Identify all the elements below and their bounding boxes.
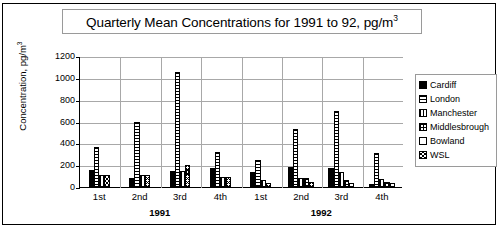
y-axis-tick [76,144,80,145]
y-axis-tick [76,166,80,167]
chart-title: Quarterly Mean Concentrations for 1991 t… [86,13,398,30]
category-separator [201,57,202,188]
solid-black-swatch [419,81,427,89]
bar-bowland-4th-1992 [390,183,395,187]
legend-item[interactable]: Manchester [419,106,493,120]
page-footer-artifact [4,232,204,241]
legend-item-label: London [430,94,460,104]
legend-item[interactable]: Bowland [419,134,493,148]
y-axis-tick-label: 1000 [41,73,75,83]
x-axis-group-labels: 19911992 [79,207,402,221]
y-axis-ticks: 120010008006004002000 [39,57,75,188]
legend-item-label: Cardiff [430,80,456,90]
legend-item-label: Middlesbrough [430,122,489,132]
plot-area [79,57,402,188]
bar-wsl-2nd-1991 [145,175,150,187]
y-axis-tick-label: 800 [41,95,75,105]
category-separator [161,57,162,188]
bar-london-3rd-1991 [175,72,180,187]
x-axis-tick-label: 3rd [160,191,200,202]
y-axis-label-text: Concentration, pg/m [17,45,28,131]
x-axis-tick-label: 4th [200,191,240,202]
chart-legend: CardiffLondonManchesterMiddlesbroughBowl… [415,74,497,167]
x-axis-group-label: 1992 [241,207,403,218]
y-axis-tick [76,57,80,58]
legend-item-label: Bowland [430,136,465,146]
chart-title-superscript: 3 [393,13,398,23]
y-axis-tick [76,123,80,124]
category-separator [120,57,121,188]
y-axis-label: Concentration, pg/m3 [16,26,28,146]
vertical-lines-swatch [419,109,427,117]
x-axis-tick-label: 3rd [321,191,361,202]
x-axis-tick-label: 2nd [119,191,159,202]
y-axis-tick-label: 400 [41,138,75,148]
x-axis-tick-label: 2nd [281,191,321,202]
chart-screenshot: Quarterly Mean Concentrations for 1991 t… [0,0,502,247]
chart-title-box: Quarterly Mean Concentrations for 1991 t… [62,9,422,34]
y-axis-tick [76,188,80,189]
bar-wsl-4th-1991 [226,177,231,187]
legend-item-label: WSL [430,150,450,160]
y-axis-tick [76,101,80,102]
legend-item[interactable]: WSL [419,148,493,162]
category-separator [322,57,323,188]
y-axis-tick-label: 0 [41,182,75,192]
category-separator [363,57,364,188]
legend-item[interactable]: London [419,92,493,106]
legend-item[interactable]: Middlesbrough [419,120,493,134]
bar-wsl-1st-1991 [104,175,109,187]
chart-title-text: Quarterly Mean Concentrations for 1991 t… [86,15,393,30]
x-axis-tick-label: 4th [362,191,402,202]
category-separator [282,57,283,188]
dense-crosshatch-swatch [419,151,427,159]
legend-item[interactable]: Cardiff [419,78,493,92]
bar-wsl-1st-1992 [266,183,271,187]
bar-bowland-3rd-1992 [349,183,354,187]
y-axis-tick [76,79,80,80]
legend-item-label: Manchester [430,108,477,118]
y-axis-tick-label: 200 [41,160,75,170]
bar-wsl-3rd-1991 [185,165,190,187]
white-empty-swatch [419,137,427,145]
x-axis-group-label: 1991 [79,207,241,218]
bar-wsl-2nd-1992 [309,182,314,187]
x-axis-tick-label: 1st [241,191,281,202]
horizontal-lines-swatch [419,95,427,103]
y-axis-label-superscript: 3 [16,42,23,46]
x-axis-tick-labels: 1st2nd3rd4th1st2nd3rd4th [79,191,402,205]
grid-hatch-swatch [419,123,427,131]
y-axis-tick-label: 600 [41,117,75,127]
y-axis-tick-label: 1200 [41,51,75,61]
category-separator [242,57,243,188]
x-axis-tick-label: 1st [79,191,119,202]
